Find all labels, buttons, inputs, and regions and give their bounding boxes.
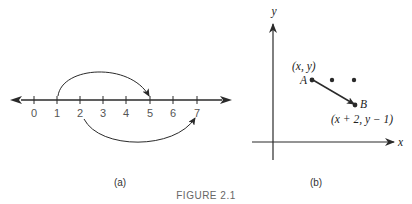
left-arrow-icon [10,96,22,104]
tick-label-7: 7 [194,107,200,119]
point-b-coords: (x + 2, y − 1) [331,113,393,126]
tick-label-1: 1 [54,107,60,119]
tick-label-3: 3 [100,107,106,119]
tick-label-5: 5 [147,107,153,119]
y-axis-label: y [270,5,277,18]
tick-label-0: 0 [31,107,37,119]
tick-label-6: 6 [170,107,176,119]
dot-2 [352,78,356,82]
caption-a: (a) [114,177,126,188]
point-a-label: A [299,74,308,86]
arc-1-to-5 [58,72,149,96]
vector-a-to-b [313,80,354,104]
tick-label-4: 4 [123,107,129,119]
panel-a: 0 1 2 3 4 5 6 7 (a) [10,72,232,188]
caption-b: (b) [310,177,322,188]
x-axis-label: x [397,136,404,148]
dot-1 [330,78,334,82]
point-b [353,103,358,108]
figure-title: FIGURE 2.1 [176,190,235,201]
figure-canvas: 0 1 2 3 4 5 6 7 (a) y x (x, y) A B (x + … [0,0,412,204]
tick-label-2: 2 [77,107,83,119]
point-b-label: B [360,98,367,110]
point-a-coords: (x, y) [292,60,316,73]
panel-b: y x (x, y) A B (x + 2, y − 1) (b) [252,5,404,188]
tick-labels: 0 1 2 3 4 5 6 7 [31,107,200,119]
arc-2-to-7 [84,118,195,142]
point-a [310,78,315,83]
